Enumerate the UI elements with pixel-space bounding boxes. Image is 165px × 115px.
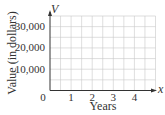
y-tick-label: 10,000 [15,63,46,75]
x-tick-label: 4 [132,91,138,103]
x-tick-label: 1 [68,91,74,103]
y-tick-label: 20,000 [15,41,46,53]
x-axis-arrow-icon [151,89,157,93]
grid-lines [50,16,156,91]
x-axis-title: Years [90,99,117,113]
y-axis-variable: V [51,2,60,16]
y-tick-label: 30,000 [15,20,46,32]
x-tick-label: 0 [40,91,46,103]
y-axis-title: Value (in dollars) [5,11,19,94]
x-axis-variable: x [157,82,164,96]
chart-canvas: 0123410,00020,00030,000 Value (in dollar… [0,0,165,115]
